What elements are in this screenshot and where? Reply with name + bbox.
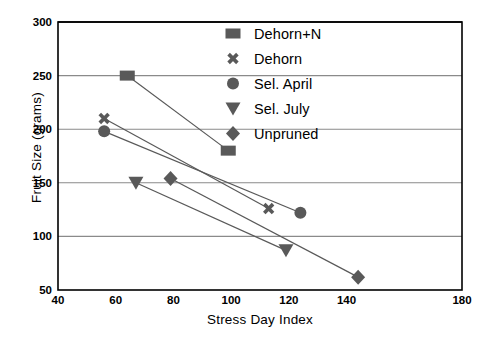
legend-item-label: Sel. April	[254, 76, 312, 92]
legend-item-sel-july[interactable]: Sel. July	[218, 99, 321, 118]
triangle-down-icon	[218, 99, 248, 118]
series-line-4	[171, 179, 359, 278]
marker-square	[226, 29, 241, 39]
chart-legend: Dehorn+NDehornSel. AprilSel. JulyUnprune…	[218, 24, 321, 143]
cross-x-icon	[218, 49, 248, 68]
data-point-1-0	[99, 113, 110, 124]
circle-icon	[218, 74, 248, 93]
square-icon	[218, 24, 248, 43]
series-line-3	[136, 183, 286, 251]
data-point-0-0	[120, 71, 135, 81]
data-point-1-1	[263, 203, 274, 214]
legend-item-label: Unpruned	[254, 126, 319, 142]
legend-item-unpruned[interactable]: Unpruned	[218, 124, 321, 143]
marker-cross-x	[227, 53, 238, 64]
data-point-0-1	[221, 146, 236, 156]
data-point-3-1	[278, 244, 293, 257]
legend-item-dehorn[interactable]: Dehorn	[218, 49, 321, 68]
marker-diamond	[226, 126, 240, 141]
legend-item-label: Dehorn+N	[254, 26, 321, 42]
data-point-2-1	[294, 207, 306, 219]
marker-triangle-down	[226, 103, 241, 116]
series-line-2	[104, 131, 300, 212]
legend-item-sel-april[interactable]: Sel. April	[218, 74, 321, 93]
data-point-4-1	[351, 270, 365, 285]
legend-item-dehorn-n[interactable]: Dehorn+N	[218, 24, 321, 43]
scatter-chart: Fruit Size (grams) 30025020015010050 406…	[0, 0, 480, 342]
legend-item-label: Sel. July	[254, 101, 310, 117]
data-point-4-0	[164, 171, 178, 186]
legend-item-label: Dehorn	[254, 51, 302, 67]
diamond-icon	[218, 124, 248, 143]
marker-circle	[227, 78, 239, 90]
data-point-2-0	[98, 125, 110, 137]
